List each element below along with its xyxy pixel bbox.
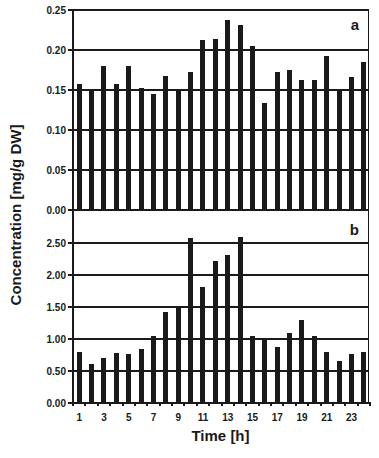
bar-hour-20 [312, 80, 317, 210]
x-tick-mark [332, 402, 334, 406]
x-tick-mark [344, 402, 346, 406]
bar-hour-11 [200, 287, 205, 403]
bar-series [72, 211, 369, 403]
y-tick-label: 0.20 [47, 45, 66, 56]
x-tick-mark [159, 402, 161, 406]
bar-hour-22 [337, 90, 342, 210]
bar-hour-16 [262, 339, 267, 403]
bar-series [72, 10, 369, 210]
bar-hour-3 [101, 66, 106, 210]
x-tick-label: 11 [198, 412, 209, 423]
x-tick-mark [221, 402, 223, 406]
bar-hour-3 [101, 358, 106, 403]
panel-a: a 0.000.050.100.150.200.25 [72, 10, 369, 211]
figure: Concentration [mg/g DW] a 0.000.050.100.… [0, 0, 379, 458]
x-tick-mark [282, 402, 284, 406]
x-tick-mark [307, 402, 309, 406]
x-axis: 1357911131517192123 [72, 402, 369, 426]
x-tick-mark [320, 402, 322, 406]
bar-hour-21 [324, 352, 329, 403]
bar-hour-7 [151, 94, 156, 210]
panel-b: b 0.000.501.001.502.002.50 [72, 211, 369, 403]
x-tick-mark [233, 402, 235, 406]
bar-hour-14 [238, 25, 243, 210]
bar-hour-21 [324, 56, 329, 210]
x-tick-mark [122, 402, 124, 406]
x-tick-mark [183, 402, 185, 406]
bar-hour-14 [238, 237, 243, 402]
x-tick-label: 19 [296, 412, 307, 423]
bar-hour-2 [89, 90, 94, 210]
bar-hour-13 [225, 255, 230, 403]
x-tick-mark [295, 402, 297, 406]
bar-hour-5 [126, 66, 131, 210]
y-tick-label: 0.50 [47, 365, 66, 376]
x-tick-mark [134, 402, 136, 406]
x-tick-label: 3 [101, 412, 107, 423]
bar-hour-16 [262, 103, 267, 210]
bar-hour-24 [361, 352, 366, 403]
bar-hour-17 [275, 347, 280, 403]
bar-hour-2 [89, 364, 94, 403]
y-tick-label: 0.00 [47, 205, 66, 216]
x-tick-mark [84, 402, 86, 406]
bar-hour-23 [349, 77, 354, 210]
bar-hour-18 [287, 70, 292, 210]
bar-hour-4 [114, 353, 119, 403]
y-tick-label: 0.15 [47, 85, 66, 96]
bar-hour-4 [114, 84, 119, 210]
y-tick-label: 0.10 [47, 125, 66, 136]
y-tick-label: 2.00 [47, 269, 66, 280]
bar-hour-15 [250, 46, 255, 210]
x-tick-mark [258, 402, 260, 406]
bar-hour-6 [139, 349, 144, 403]
y-tick-label: 0.25 [47, 5, 66, 16]
bar-hour-15 [250, 336, 255, 402]
x-tick-mark [369, 402, 371, 406]
bar-hour-6 [139, 88, 144, 210]
bar-hour-8 [163, 312, 168, 403]
x-tick-label: 21 [321, 412, 332, 423]
x-tick-label: 23 [346, 412, 357, 423]
x-tick-mark [208, 402, 210, 406]
bar-hour-9 [176, 90, 181, 210]
y-tick-label: 0.05 [47, 165, 66, 176]
bar-hour-10 [188, 72, 193, 210]
y-tick-label: 0.00 [47, 397, 66, 408]
bar-hour-8 [163, 76, 168, 210]
bar-hour-12 [213, 261, 218, 403]
x-tick-label: 7 [151, 412, 157, 423]
x-tick-mark [146, 402, 148, 406]
bar-hour-7 [151, 336, 156, 402]
bar-hour-10 [188, 238, 193, 403]
x-tick-mark [97, 402, 99, 406]
x-tick-label: 17 [272, 412, 283, 423]
bar-hour-22 [337, 361, 342, 403]
bar-hour-23 [349, 354, 354, 403]
bar-hour-5 [126, 354, 131, 403]
bar-hour-24 [361, 62, 366, 210]
bar-hour-11 [200, 40, 205, 210]
x-tick-mark [357, 402, 359, 406]
bar-hour-13 [225, 20, 230, 210]
y-tick-label: 1.00 [47, 333, 66, 344]
x-tick-label: 5 [126, 412, 132, 423]
bar-hour-20 [312, 336, 317, 402]
bar-hour-1 [77, 352, 82, 402]
x-tick-mark [245, 402, 247, 406]
bar-hour-1 [77, 84, 82, 210]
bar-hour-17 [275, 72, 280, 210]
bar-hour-18 [287, 333, 292, 403]
x-tick-mark [171, 402, 173, 406]
x-axis-label: Time [h] [72, 427, 369, 444]
x-tick-label: 9 [175, 412, 181, 423]
x-tick-label: 1 [76, 412, 82, 423]
x-tick-mark [196, 402, 198, 406]
y-tick-label: 2.50 [47, 238, 66, 249]
x-tick-label: 15 [247, 412, 258, 423]
y-axis-label: Concentration [mg/g DW] [7, 100, 27, 330]
x-tick-label: 13 [222, 412, 233, 423]
y-tick-label: 1.50 [47, 301, 66, 312]
bar-hour-19 [299, 80, 304, 210]
x-tick-mark [109, 402, 111, 406]
